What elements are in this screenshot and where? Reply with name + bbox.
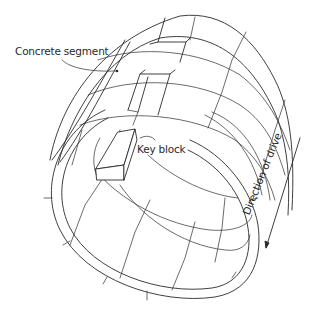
long-joint-1 (208, 32, 246, 128)
long-joint-3 (190, 17, 195, 40)
key-block (96, 129, 137, 180)
inner-ring-joint-3 (148, 155, 238, 198)
concrete-segment-label: Concrete segment (15, 45, 109, 57)
inner-long-joint-6 (72, 130, 82, 165)
key-slot-middle (128, 70, 175, 115)
key-slot-middle-edge (128, 110, 138, 125)
inner-long-joint-2 (120, 200, 150, 278)
direction-arrowhead-icon (265, 241, 269, 248)
concrete-segment-leader-dot (116, 70, 119, 73)
tunnel-lining-diagram: Concrete segment Key block Direction of … (0, 0, 330, 315)
inner-ring-joint-2 (120, 185, 250, 250)
key-block-label: Key block (137, 143, 185, 155)
key-block-leader (140, 136, 155, 140)
inner-long-joint-1 (70, 175, 105, 245)
front-ring-tick-3 (103, 277, 107, 284)
inner-long-joint-3 (172, 222, 195, 290)
